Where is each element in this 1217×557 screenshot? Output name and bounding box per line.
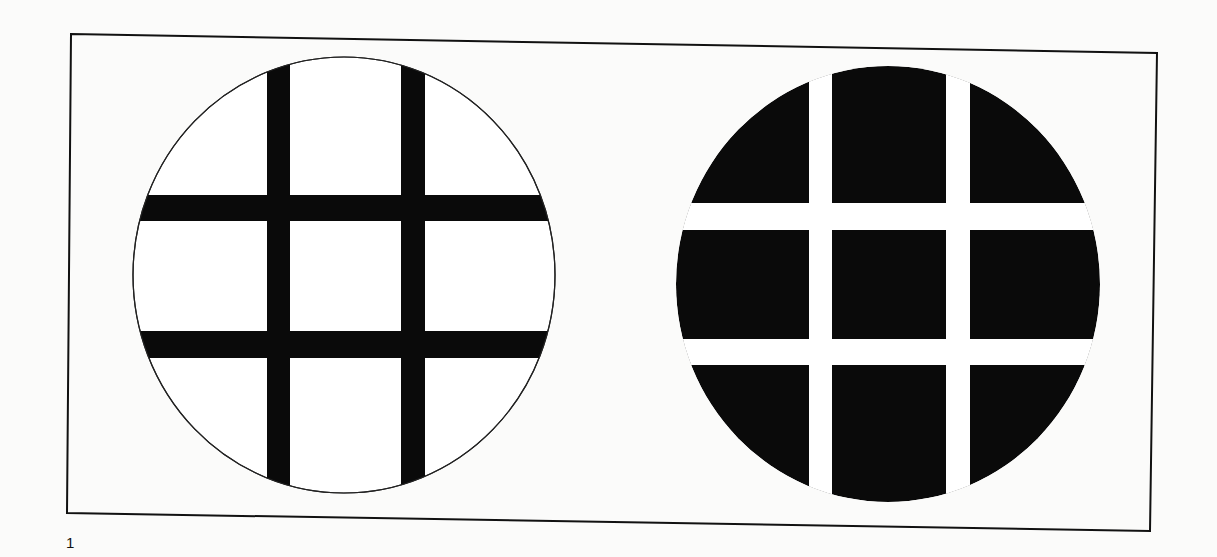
white-circle bbox=[133, 57, 555, 493]
page-number: 1 bbox=[66, 534, 74, 551]
figure-illustration bbox=[0, 0, 1217, 557]
vertical-gap bbox=[809, 0, 832, 557]
vertical-bar bbox=[401, 0, 425, 557]
vertical-gap bbox=[946, 0, 970, 557]
vertical-bar bbox=[267, 0, 290, 557]
black-circle bbox=[676, 66, 1100, 502]
